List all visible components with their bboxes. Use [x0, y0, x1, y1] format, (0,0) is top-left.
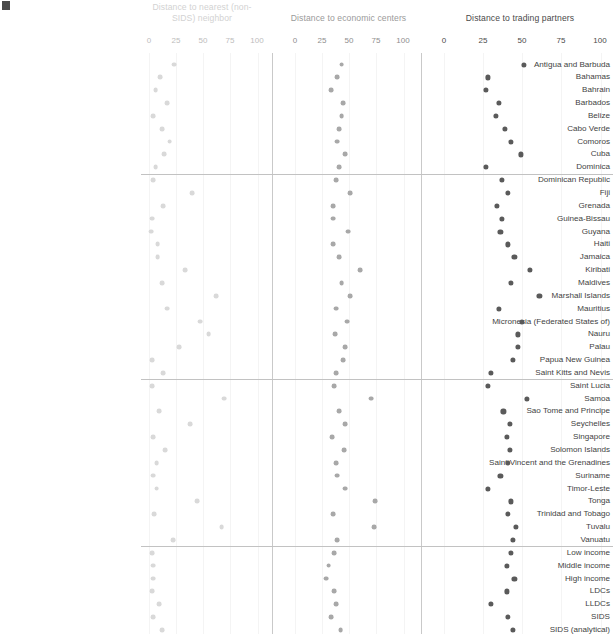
data-point	[161, 370, 166, 375]
data-point	[335, 139, 340, 144]
data-point	[214, 293, 219, 298]
data-point	[177, 345, 182, 350]
data-point	[331, 512, 336, 517]
category-label: Seychelles	[473, 419, 613, 428]
category-label: Palau	[473, 342, 613, 351]
panel-title-economic-centers: Distance to economic centers	[286, 13, 411, 24]
data-point	[333, 332, 338, 337]
category-label: Solomon Islands	[473, 445, 613, 454]
data-point	[149, 229, 154, 234]
category-label: Cuba	[473, 149, 613, 158]
group-separator	[141, 546, 613, 547]
figure-corner-marker	[2, 1, 10, 10]
category-label: Dominican Republic	[473, 175, 613, 184]
category-label: Kiribati	[473, 265, 613, 274]
data-point	[157, 75, 162, 80]
category-label: Tonga	[473, 496, 613, 505]
data-point	[155, 255, 160, 260]
data-point	[337, 165, 342, 170]
data-point	[162, 152, 167, 157]
category-label: Samoa	[473, 394, 613, 403]
data-point	[345, 319, 350, 324]
data-point	[328, 615, 333, 620]
data-point	[151, 113, 156, 118]
category-label: Bahrain	[473, 85, 613, 94]
data-point	[373, 499, 378, 504]
data-point	[151, 576, 156, 581]
data-point	[331, 203, 336, 208]
data-point	[369, 396, 374, 401]
tick-p2-75: 75	[364, 36, 388, 45]
category-label: LLDCs	[473, 599, 613, 608]
data-point	[339, 62, 344, 67]
data-point	[348, 293, 353, 298]
data-point	[335, 538, 340, 543]
data-point	[150, 550, 155, 555]
panel-title-nearest-neighbor: Distance to nearest (non-SIDS) neighbor	[141, 2, 263, 24]
data-point	[343, 486, 348, 491]
category-label: Bahamas	[473, 72, 613, 81]
category-label: Low income	[473, 548, 613, 557]
data-point	[154, 460, 159, 465]
data-point	[339, 281, 344, 286]
data-point	[151, 563, 156, 568]
category-label: Haiti	[473, 239, 613, 248]
data-point	[154, 486, 159, 491]
category-label: Singapore	[473, 432, 613, 441]
tick-p3-50: 50	[510, 36, 534, 45]
tick-p2-25: 25	[310, 36, 334, 45]
tick-p1-50: 50	[191, 36, 215, 45]
data-point	[339, 113, 344, 118]
data-point	[150, 216, 155, 221]
data-point	[156, 409, 161, 414]
category-label: Barbados	[473, 98, 613, 107]
category-label: Vanuatu	[473, 535, 613, 544]
category-label: High income	[473, 574, 613, 583]
group-separator	[141, 379, 613, 380]
data-point	[337, 409, 342, 414]
category-label: Fiji	[473, 188, 613, 197]
category-label: Saint Vincent and the Grenadines	[473, 458, 613, 467]
data-point	[153, 165, 158, 170]
data-point	[165, 306, 170, 311]
data-point	[163, 448, 168, 453]
category-label: Timor-Leste	[473, 484, 613, 493]
data-point	[343, 345, 348, 350]
data-point	[348, 191, 353, 196]
data-point	[170, 538, 175, 543]
data-point	[334, 370, 339, 375]
category-label: Cabo Verde	[473, 124, 613, 133]
category-label: Middle income	[473, 561, 613, 570]
data-point	[161, 203, 166, 208]
tick-p3-25: 25	[471, 36, 495, 45]
category-label: LDCs	[473, 586, 613, 595]
data-point	[343, 422, 348, 427]
category-label: Guinea-Bissau	[473, 214, 613, 223]
category-label: Micronesia (Federated States of)	[473, 317, 613, 326]
category-label: Dominica	[473, 162, 613, 171]
data-point	[150, 589, 155, 594]
data-point	[332, 550, 337, 555]
data-point	[329, 435, 334, 440]
data-point	[335, 473, 340, 478]
tick-p3-0: 0	[432, 36, 456, 45]
data-point	[334, 602, 339, 607]
tick-p1-100: 100	[245, 36, 269, 45]
data-point	[221, 396, 226, 401]
data-point	[167, 139, 172, 144]
data-point	[160, 126, 165, 131]
data-point	[334, 306, 339, 311]
data-point	[343, 152, 348, 157]
data-point	[324, 576, 329, 581]
data-point	[160, 281, 165, 286]
category-label: SIDS	[473, 612, 613, 621]
data-point	[150, 383, 155, 388]
tick-p2-50: 50	[337, 36, 361, 45]
tick-p3-75: 75	[549, 36, 573, 45]
category-label: Suriname	[473, 471, 613, 480]
tick-p1-75: 75	[218, 36, 242, 45]
panel-title-trading-partners: Distance to trading partners	[436, 13, 604, 24]
chart-root: Distance to nearest (non-SIDS) neighbor …	[0, 0, 613, 634]
tick-p2-0: 0	[283, 36, 307, 45]
data-point	[198, 319, 203, 324]
